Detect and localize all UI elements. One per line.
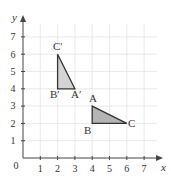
vertex-label-c-prime: C′ bbox=[53, 40, 63, 52]
x-tick-label: 5 bbox=[107, 163, 112, 174]
vertex-label-b-prime: B′ bbox=[50, 88, 60, 100]
y-axis-arrow-icon bbox=[20, 15, 26, 22]
x-tick-label: 3 bbox=[72, 163, 77, 174]
x-tick-label: 4 bbox=[90, 163, 95, 174]
y-tick-label: 5 bbox=[11, 66, 16, 77]
y-tick-label: 7 bbox=[11, 31, 16, 42]
y-tick-label: 3 bbox=[11, 100, 16, 111]
vertex-label-a: A bbox=[89, 92, 97, 104]
x-tick-label: 7 bbox=[142, 163, 147, 174]
y-tick-label: 6 bbox=[11, 49, 16, 60]
vertex-label-a-prime: A′ bbox=[71, 88, 81, 100]
vertex-label-c: C bbox=[128, 117, 135, 129]
y-tick-label: 1 bbox=[11, 135, 16, 146]
x-axis-label: x bbox=[160, 161, 166, 173]
vertex-label-b: B bbox=[84, 124, 91, 136]
coordinate-plane: x y 0 1 2 3 4 5 6 7 1 2 3 4 5 6 7 A B C … bbox=[0, 0, 171, 186]
y-axis-label: y bbox=[11, 11, 17, 23]
grid bbox=[23, 24, 157, 158]
x-tick-label: 6 bbox=[124, 163, 129, 174]
x-tick-label: 2 bbox=[55, 163, 60, 174]
x-tick-label: 1 bbox=[38, 163, 43, 174]
y-tick-label: 2 bbox=[11, 118, 16, 129]
origin-label: 0 bbox=[14, 160, 19, 171]
y-tick-label: 4 bbox=[11, 83, 16, 94]
